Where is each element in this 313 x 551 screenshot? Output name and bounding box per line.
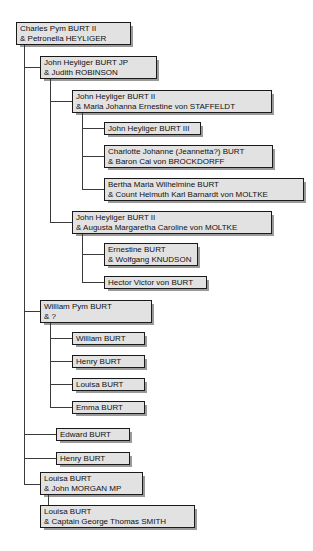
connector-augusta-to-hector	[82, 282, 104, 283]
person-node-ernestine-burt[interactable]: Ernestine BURT & Wolfgang KNUDSON	[104, 243, 198, 266]
connector-root-to-louisa-morgan	[24, 484, 40, 485]
person-name: John Heyliger BURT II	[76, 213, 268, 223]
person-name: Bertha Maria Wilhelmine BURT	[108, 180, 300, 190]
person-name: John Heyliger BURT JP	[44, 58, 153, 68]
person-name: William Pym BURT	[44, 302, 148, 312]
connector-john-jp-to-staffeldt	[50, 101, 72, 102]
connector-william-pym-to-henry	[50, 361, 72, 362]
connector-root-to-henry	[24, 458, 56, 459]
person-node-john-heyliger-burt-ii-moltke[interactable]: John Heyliger BURT II & Augusta Margaret…	[72, 211, 272, 234]
spouse-name: & ?	[44, 312, 148, 322]
connector-william-pym-to-emma	[50, 407, 72, 408]
spouse-name: & Augusta Margaretha Caroline von MOLTKE	[76, 223, 268, 233]
person-node-henry-burt-child[interactable]: Henry BURT	[72, 355, 145, 368]
connector-william-pym-to-william	[50, 338, 72, 339]
connector-louisa-morgan-to-smith	[48, 495, 49, 505]
person-name: William BURT	[76, 334, 141, 344]
person-node-bertha-maria-wilhelmine-burt[interactable]: Bertha Maria Wilhelmine BURT & Count Hel…	[104, 178, 304, 201]
person-name: Louisa BURT	[44, 507, 191, 517]
connector-root-spine	[24, 45, 25, 484]
person-name: Edward BURT	[60, 430, 126, 440]
connector-william-pym-spine	[50, 323, 51, 407]
connector-staffeldt-to-charlotte	[82, 156, 104, 157]
person-node-john-heyliger-burt-jp[interactable]: John Heyliger BURT JP & Judith ROBINSON	[40, 56, 157, 79]
family-tree-diagram: Charles Pym BURT II & Petronella HEYLIGE…	[0, 0, 313, 551]
person-node-charles-pym-burt-ii[interactable]: Charles Pym BURT II & Petronella HEYLIGE…	[16, 22, 131, 45]
connector-staffeldt-spine	[82, 113, 83, 189]
person-name: Ernestine BURT	[108, 245, 194, 255]
person-name: Emma BURT	[76, 403, 141, 413]
person-name: Hector Victor von BURT	[108, 278, 203, 288]
spouse-name: & Maria Johanna Ernestine von STAFFELDT	[76, 102, 268, 112]
connector-staffeldt-to-john-iii	[82, 128, 104, 129]
spouse-name: & John MORGAN MP	[44, 484, 139, 494]
person-name: Charles Pym BURT II	[20, 24, 127, 34]
person-node-john-heyliger-burt-ii-staffeldt[interactable]: John Heyliger BURT II & Maria Johanna Er…	[72, 90, 272, 113]
spouse-name: & Count Helmuth Karl Barnardt von MOLTKE	[108, 190, 300, 200]
person-node-edward-burt[interactable]: Edward BURT	[56, 428, 130, 441]
connector-augusta-spine	[82, 234, 83, 282]
person-node-john-heyliger-burt-iii[interactable]: John Heyliger BURT III	[104, 122, 201, 135]
connector-staffeldt-to-bertha	[82, 189, 104, 190]
person-node-william-burt[interactable]: William BURT	[72, 332, 145, 345]
connector-william-pym-to-louisa	[50, 384, 72, 385]
connector-augusta-to-ernestine	[82, 254, 104, 255]
person-node-hector-victor-von-burt[interactable]: Hector Victor von BURT	[104, 276, 207, 289]
person-node-emma-burt[interactable]: Emma BURT	[72, 401, 145, 414]
person-name: Henry BURT	[60, 454, 126, 464]
spouse-name: & Petronella HEYLIGER	[20, 34, 127, 44]
connector-john-jp-to-augusta	[50, 222, 72, 223]
spouse-name: & Judith ROBINSON	[44, 68, 153, 78]
person-name: Henry BURT	[76, 357, 141, 367]
person-name: Louisa BURT	[44, 474, 139, 484]
person-name: John Heyliger BURT III	[108, 124, 197, 134]
spouse-name: & Baron Cai von BROCKDORFF	[108, 157, 269, 167]
spouse-name: & Wolfgang KNUDSON	[108, 255, 194, 265]
person-node-louisa-burt-child[interactable]: Louisa BURT	[72, 378, 145, 391]
person-node-charlotte-johanne-burt[interactable]: Charlotte Johanne (Jeannetta?) BURT & Ba…	[104, 145, 273, 168]
connector-root-to-edward	[24, 434, 56, 435]
person-name: Charlotte Johanne (Jeannetta?) BURT	[108, 147, 269, 157]
person-node-louisa-burt-smith[interactable]: Louisa BURT & Captain George Thomas SMIT…	[40, 505, 195, 528]
person-node-william-pym-burt[interactable]: William Pym BURT & ?	[40, 300, 152, 323]
connector-root-to-william-pym	[24, 311, 40, 312]
spouse-name: & Captain George Thomas SMITH	[44, 517, 191, 527]
person-name: Louisa BURT	[76, 380, 141, 390]
person-node-henry-burt[interactable]: Henry BURT	[56, 452, 130, 465]
connector-root-to-john-jp	[24, 67, 40, 68]
person-name: John Heyliger BURT II	[76, 92, 268, 102]
person-node-louisa-burt-morgan[interactable]: Louisa BURT & John MORGAN MP	[40, 472, 143, 495]
